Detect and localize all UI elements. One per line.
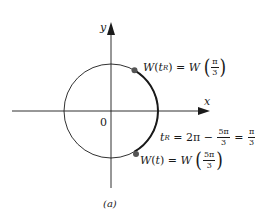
func-name: W xyxy=(140,154,151,167)
numerator: π xyxy=(248,128,255,138)
denominator: 3 xyxy=(221,138,226,147)
numerator: 5π xyxy=(217,128,229,138)
numerator: π xyxy=(211,58,218,68)
denominator: 3 xyxy=(207,161,212,170)
equals-sign: = xyxy=(234,131,243,144)
denominator: 3 xyxy=(212,68,217,77)
reference-equation: tR = 2π − 5π3 = π3 xyxy=(160,128,256,147)
y-axis-arrow-icon xyxy=(107,22,115,35)
numerator: 5π xyxy=(203,151,215,161)
arg: t xyxy=(156,154,160,167)
minus-sign: − xyxy=(204,131,213,144)
denominator: 3 xyxy=(249,138,254,147)
func-name: W xyxy=(189,61,200,74)
figure-caption: (a) xyxy=(103,199,117,209)
func-name: W xyxy=(143,61,154,74)
unit-circle-diagram xyxy=(0,0,262,217)
subscript: R xyxy=(164,134,169,142)
y-axis-label: y xyxy=(100,22,106,33)
point-pi-over-3 xyxy=(132,67,138,73)
term: 2π xyxy=(186,131,200,144)
fraction: π3 xyxy=(211,58,218,77)
fraction: π3 xyxy=(248,128,255,147)
point-5pi-over-3 xyxy=(133,151,139,157)
fraction: 5π3 xyxy=(217,128,229,147)
x-axis-label: x xyxy=(204,96,210,107)
subscript: R xyxy=(163,64,168,72)
x-axis-arrow-icon xyxy=(198,107,210,115)
point-label-5pi-over-3: W(t) = W (5π3) xyxy=(140,151,223,170)
point-label-pi-over-3: W(tR) = W (π3) xyxy=(143,58,226,77)
origin-label: 0 xyxy=(100,117,107,128)
fraction: 5π3 xyxy=(203,151,215,170)
func-name: W xyxy=(181,154,192,167)
